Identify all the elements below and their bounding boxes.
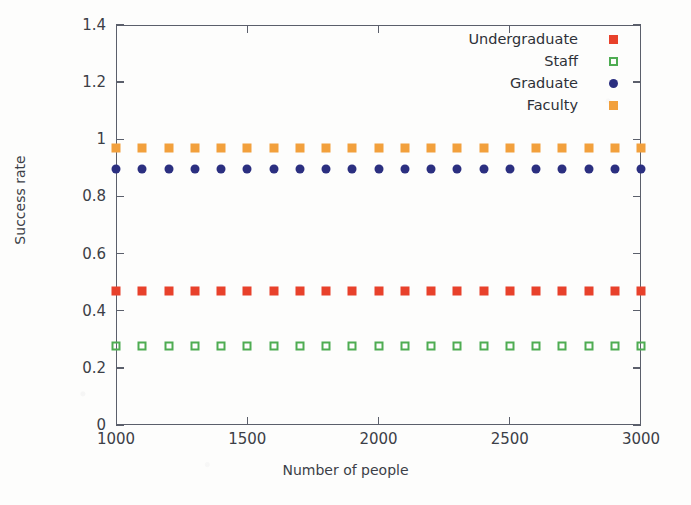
x-tick-label: 3000 <box>622 430 660 448</box>
data-point-staff <box>427 342 436 351</box>
data-point-staff <box>610 342 619 351</box>
data-point-graduate <box>190 165 199 174</box>
data-point-graduate <box>400 165 409 174</box>
data-point-faculty <box>322 144 331 153</box>
y-tick-label: 1 <box>96 130 106 148</box>
y-tick-mark <box>116 253 124 254</box>
data-point-graduate <box>505 165 514 174</box>
y-tick-mark-right <box>633 24 641 25</box>
data-point-staff <box>558 342 567 351</box>
data-point-faculty <box>348 144 357 153</box>
data-point-faculty <box>453 144 462 153</box>
data-point-faculty <box>637 144 646 153</box>
data-point-graduate <box>112 165 121 174</box>
data-point-staff <box>217 342 226 351</box>
y-tick-label: 1.2 <box>82 73 106 91</box>
data-point-undergraduate <box>400 286 409 295</box>
x-tick-mark <box>247 417 248 425</box>
data-point-graduate <box>610 165 619 174</box>
x-tick-label: 2500 <box>491 430 529 448</box>
y-tick-label: 0.4 <box>82 302 106 320</box>
y-axis-title: Success rate <box>12 140 28 260</box>
y-tick-mark <box>116 139 124 140</box>
y-tick-mark-right <box>633 424 641 425</box>
x-tick-label: 1000 <box>97 430 135 448</box>
data-point-graduate <box>453 165 462 174</box>
legend-entry-staff: Staff <box>404 50 620 72</box>
data-point-undergraduate <box>164 286 173 295</box>
data-point-staff <box>138 342 147 351</box>
data-point-undergraduate <box>374 286 383 295</box>
data-point-undergraduate <box>138 286 147 295</box>
data-point-graduate <box>164 165 173 174</box>
data-point-undergraduate <box>269 286 278 295</box>
legend-marker-icon <box>606 57 620 66</box>
x-tick-mark-top <box>247 25 248 33</box>
y-tick-mark-right <box>633 196 641 197</box>
data-point-undergraduate <box>505 286 514 295</box>
y-tick-mark <box>116 367 124 368</box>
data-point-undergraduate <box>190 286 199 295</box>
y-tick-mark <box>116 310 124 311</box>
data-point-faculty <box>190 144 199 153</box>
data-point-staff <box>269 342 278 351</box>
data-point-graduate <box>348 165 357 174</box>
x-tick-mark <box>509 417 510 425</box>
data-point-faculty <box>164 144 173 153</box>
data-point-faculty <box>584 144 593 153</box>
y-tick-label: 0.2 <box>82 359 106 377</box>
data-point-graduate <box>243 165 252 174</box>
data-point-faculty <box>374 144 383 153</box>
x-tick-label: 1500 <box>228 430 266 448</box>
data-point-undergraduate <box>610 286 619 295</box>
data-point-staff <box>190 342 199 351</box>
legend-swatch <box>609 101 618 110</box>
data-point-faculty <box>138 144 147 153</box>
y-tick-mark <box>116 424 124 425</box>
legend-label: Faculty <box>527 97 606 113</box>
x-tick-label: 2000 <box>359 430 397 448</box>
data-point-faculty <box>295 144 304 153</box>
data-point-undergraduate <box>558 286 567 295</box>
data-point-graduate <box>637 165 646 174</box>
data-point-graduate <box>427 165 436 174</box>
data-point-graduate <box>138 165 147 174</box>
data-point-undergraduate <box>243 286 252 295</box>
data-point-staff <box>584 342 593 351</box>
legend-marker-icon <box>606 79 620 88</box>
data-point-undergraduate <box>453 286 462 295</box>
data-point-faculty <box>427 144 436 153</box>
data-point-graduate <box>295 165 304 174</box>
x-tick-mark-top <box>378 25 379 33</box>
legend-label: Graduate <box>510 75 606 91</box>
y-tick-mark-right <box>633 81 641 82</box>
legend-label: Undergraduate <box>468 31 606 47</box>
data-point-graduate <box>217 165 226 174</box>
chart-legend: UndergraduateStaffGraduateFaculty <box>404 28 620 116</box>
data-point-staff <box>453 342 462 351</box>
data-point-faculty <box>505 144 514 153</box>
data-point-graduate <box>479 165 488 174</box>
data-point-staff <box>243 342 252 351</box>
x-tick-mark <box>378 417 379 425</box>
y-tick-label: 0.8 <box>82 187 106 205</box>
data-point-staff <box>532 342 541 351</box>
data-point-staff <box>637 342 646 351</box>
data-point-graduate <box>558 165 567 174</box>
data-point-faculty <box>217 144 226 153</box>
y-tick-mark <box>116 24 124 25</box>
legend-entry-faculty: Faculty <box>404 94 620 116</box>
data-point-staff <box>400 342 409 351</box>
data-point-staff <box>374 342 383 351</box>
y-tick-mark-right <box>633 310 641 311</box>
data-point-undergraduate <box>295 286 304 295</box>
data-point-staff <box>505 342 514 351</box>
data-point-graduate <box>322 165 331 174</box>
data-point-graduate <box>269 165 278 174</box>
data-point-faculty <box>479 144 488 153</box>
legend-marker-icon <box>606 101 620 110</box>
data-point-staff <box>295 342 304 351</box>
data-point-staff <box>322 342 331 351</box>
data-point-staff <box>348 342 357 351</box>
x-axis-title: Number of people <box>0 462 691 478</box>
